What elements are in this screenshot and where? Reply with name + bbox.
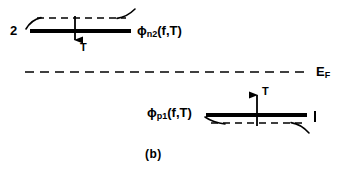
- phi-p1-symbol: ϕ: [147, 105, 157, 120]
- temperature-label-upper: T: [80, 42, 87, 53]
- figure-caption: (b): [145, 148, 162, 160]
- phi-p1-barrier-label: ϕp1(f,T): [147, 106, 192, 121]
- fermi-level-label: EF: [316, 65, 330, 80]
- phi-n2-arguments: (f,T): [157, 23, 182, 38]
- phi-n2-barrier-label: ϕn2(f,T): [137, 24, 182, 39]
- temperature-label-lower: T: [262, 86, 269, 97]
- phi-p1-subscript: p1: [157, 111, 168, 121]
- band-bending-curve-left-electrode-2: [26, 18, 41, 29]
- band-bending-curve-right-electrode-1: [291, 123, 309, 133]
- band-bending-curve-right-electrode-2: [117, 9, 135, 18]
- phi-p1-arguments: (f,T): [167, 105, 192, 120]
- phi-n2-subscript: n2: [147, 29, 158, 39]
- electrode-1-stroke-glyph: [314, 111, 316, 122]
- fermi-symbol: E: [316, 64, 325, 79]
- fermi-subscript: F: [325, 70, 331, 80]
- phi-n2-symbol: ϕ: [137, 23, 147, 38]
- electrode-1-number-label: [314, 110, 316, 123]
- energy-band-diagram-figure: 2 ϕn2(f,T) T EF ϕp1(f,T) T (b): [0, 0, 349, 175]
- electrode-2-number-label: 2: [10, 24, 17, 37]
